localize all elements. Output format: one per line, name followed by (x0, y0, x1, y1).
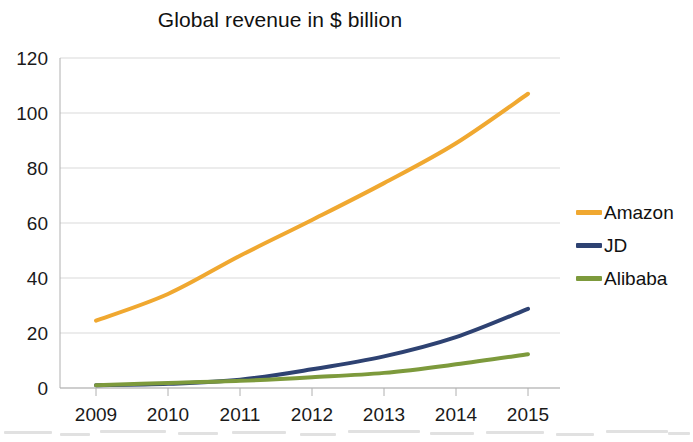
chart-container: Global revenue in $ billion 020406080100… (0, 0, 693, 442)
scan-artifact (556, 433, 594, 436)
scan-artifact (606, 430, 668, 433)
x-axis-tick-label: 2010 (147, 404, 189, 425)
x-axis-tick-label: 2011 (220, 404, 261, 425)
scan-artifact-strip (0, 428, 693, 442)
legend-item-jd[interactable]: JD (576, 229, 693, 262)
scan-artifact (60, 433, 90, 436)
y-axis-tick-label: 0 (37, 378, 48, 399)
x-axis-tick-label: 2009 (75, 404, 117, 425)
scan-artifact (486, 431, 544, 434)
legend-item-amazon[interactable]: Amazon (576, 196, 693, 229)
y-axis-tick-labels: 020406080100120 (16, 48, 48, 399)
scan-artifact (178, 432, 218, 435)
y-axis-tick-label: 80 (27, 158, 48, 179)
y-axis-tick-label: 120 (16, 48, 48, 69)
chart-legend: Amazon JD Alibaba (576, 196, 693, 295)
legend-swatch-amazon (576, 210, 602, 215)
x-axis-tick-label: 2012 (291, 404, 333, 425)
y-axis-tick-label: 100 (16, 103, 48, 124)
legend-item-alibaba[interactable]: Alibaba (576, 262, 693, 295)
scan-artifact (4, 431, 52, 434)
legend-swatch-jd (576, 243, 602, 248)
data-series-lines (96, 94, 528, 386)
y-axis-tick-label: 20 (27, 323, 48, 344)
series-line-amazon (96, 94, 528, 321)
scan-artifact (300, 433, 336, 436)
x-axis-tick-labels: 2009201020112012201320142015 (75, 404, 549, 425)
scan-artifact (232, 431, 286, 434)
x-axis-tick-label: 2015 (507, 404, 549, 425)
scan-artifact (668, 432, 690, 435)
series-line-jd (96, 309, 528, 385)
legend-label-amazon: Amazon (604, 203, 674, 222)
legend-label-alibaba: Alibaba (604, 269, 667, 288)
legend-label-jd: JD (604, 236, 627, 255)
y-axis-tick-label: 40 (27, 268, 48, 289)
x-axis-ticks (96, 388, 528, 396)
x-axis-tick-label: 2013 (363, 404, 405, 425)
scan-artifact (348, 430, 420, 433)
y-axis-tick-label: 60 (27, 213, 48, 234)
x-axis-tick-label: 2014 (435, 404, 478, 425)
scan-artifact (100, 430, 166, 433)
legend-swatch-alibaba (576, 276, 602, 281)
scan-artifact (430, 432, 474, 435)
